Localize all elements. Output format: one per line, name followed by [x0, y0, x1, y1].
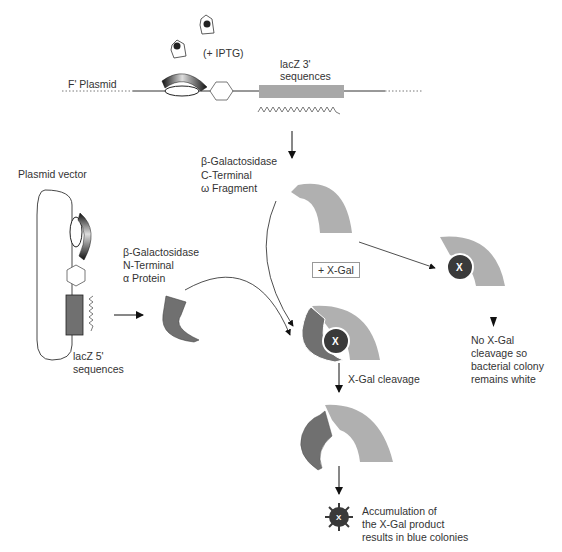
- white-colony-line2: cleavage so: [471, 347, 527, 360]
- lacz-3-block: [259, 85, 344, 98]
- promoter-hexagon-icon: [210, 82, 233, 100]
- plasmid-vector: [37, 190, 93, 360]
- white-colony-line1: No X-Gal: [471, 334, 514, 347]
- c-term-label-line2: C-Terminal: [201, 169, 252, 182]
- xgal-substrate-label: X: [332, 335, 339, 348]
- complemented-enzyme-shape: [302, 306, 380, 362]
- white-colony-line4: remains white: [471, 373, 536, 386]
- mrna-wave-icon: [89, 296, 93, 331]
- iptg-label: (+ IPTG): [203, 47, 244, 60]
- arrow-curve-omega: [266, 201, 293, 326]
- c-term-label-line1: β-Galactosidase: [201, 155, 277, 168]
- blue-colony-line1: Accumulation of: [362, 505, 437, 518]
- lacz5-label-line2: sequences: [73, 363, 124, 376]
- lacz-5-block: [66, 295, 83, 335]
- xgal-cleavage-label: X-Gal cleavage: [348, 373, 420, 386]
- c-term-label-line3: ω Fragment: [201, 182, 257, 195]
- mrna-wave-icon: [258, 107, 340, 114]
- blue-colony-line3: results in blue colonies: [362, 531, 468, 544]
- xgal-substrate-label: X: [456, 261, 463, 274]
- n-term-label-line2: N-Terminal: [123, 259, 174, 272]
- blue-colony-line2: the X-Gal product: [362, 518, 444, 531]
- lacz5-label-line1: lacZ 5': [73, 350, 104, 363]
- operator-icon: [165, 86, 199, 96]
- lacz3-label-line2: sequences: [280, 70, 331, 83]
- iptg-molecule-icon: [200, 15, 214, 34]
- white-colony-line3: bacterial colony: [471, 360, 544, 373]
- iptg-molecule-icon: [171, 40, 186, 58]
- n-term-label-line3: α Protein: [123, 272, 165, 285]
- f-plasmid-label: F' Plasmid: [68, 78, 117, 91]
- arrow-to-uncleaved: [359, 242, 435, 268]
- omega-fragment-shape: [291, 184, 352, 233]
- n-term-label-line1: β-Galactosidase: [123, 246, 199, 259]
- arrow-curve-alpha: [185, 277, 290, 335]
- omega-with-xgal-shape: [440, 237, 505, 286]
- xgal-addition-box: + X-Gal: [312, 262, 360, 278]
- promoter-hexagon-icon: [67, 265, 85, 286]
- plasmid-vector-label: Plasmid vector: [18, 168, 87, 181]
- alpha-protein-shape: [163, 296, 199, 342]
- arrow-down: [490, 317, 497, 327]
- cleaved-enzyme-shape: [301, 405, 393, 470]
- xgal-product-label: X: [336, 511, 341, 524]
